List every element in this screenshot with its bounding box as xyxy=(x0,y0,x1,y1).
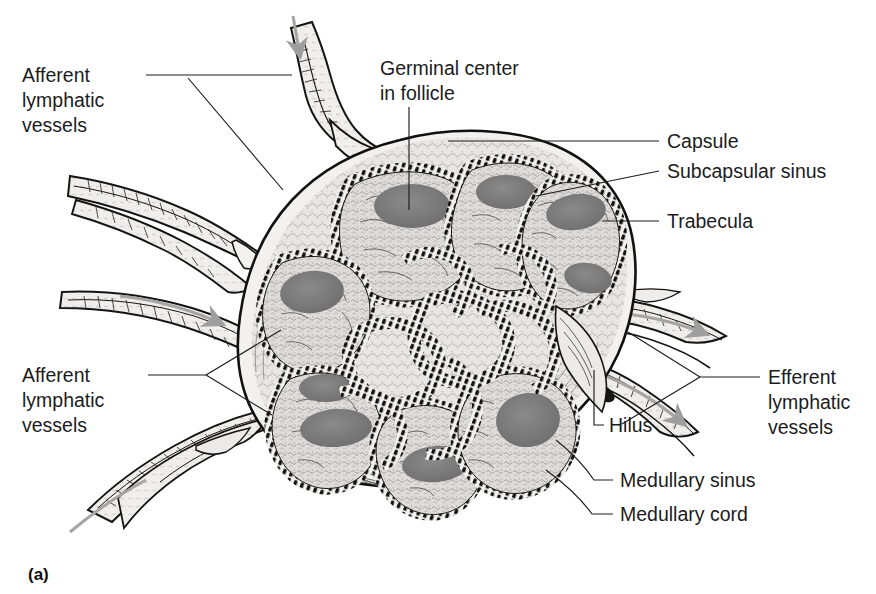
label-afferent-top-left: Afferent lymphatic vessels xyxy=(22,64,105,136)
label-afferent-line2: lymphatic xyxy=(22,89,105,111)
label-trabecula: Trabecula xyxy=(667,210,753,232)
label-afferent-line3: vessels xyxy=(22,114,87,136)
label-medullary-cord: Medullary cord xyxy=(620,503,748,525)
lymph-node-body xyxy=(238,131,636,521)
label-germinal-line2: in follicle xyxy=(380,82,455,104)
figure-caption: (a) xyxy=(28,565,49,584)
afferent-vessel-bottom-left xyxy=(70,399,282,532)
label-hilus: Hilus xyxy=(609,414,653,436)
label-medullary-sinus: Medullary sinus xyxy=(620,469,756,491)
label-efferent-line2: lymphatic xyxy=(768,391,851,413)
figure-page: Afferent lymphatic vessels Germinal cent… xyxy=(0,0,876,594)
label-afferent2-line1: Afferent xyxy=(22,364,91,386)
label-subcapsular-sinus: Subcapsular sinus xyxy=(667,160,827,182)
label-efferent-line3: vessels xyxy=(768,416,833,438)
label-capsule: Capsule xyxy=(667,130,739,152)
label-efferent-line1: Efferent xyxy=(768,366,837,388)
label-afferent2-line2: lymphatic xyxy=(22,389,105,411)
label-germinal-line1: Germinal center xyxy=(380,57,519,79)
follicle-nodule xyxy=(265,365,387,494)
afferent-vessel-upper-left xyxy=(68,176,266,293)
label-afferent-line1: Afferent xyxy=(22,64,91,86)
label-afferent-bottom-left: Afferent lymphatic vessels xyxy=(22,364,105,436)
label-germinal-center: Germinal center in follicle xyxy=(380,57,519,104)
lymph-node-diagram: Afferent lymphatic vessels Germinal cent… xyxy=(0,0,876,594)
label-efferent: Efferent lymphatic vessels xyxy=(768,366,851,438)
label-afferent2-line3: vessels xyxy=(22,414,87,436)
